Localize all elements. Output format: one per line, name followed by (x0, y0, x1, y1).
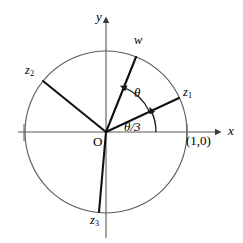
subscript: 2 (30, 69, 34, 78)
figure-canvas (0, 0, 243, 243)
point-label-z2: z2 (25, 64, 34, 78)
angle-label-theta-over-three: θ/3 (124, 120, 141, 133)
vector-z2 (43, 81, 106, 132)
unit-point-label: (1,0) (186, 134, 211, 147)
angle-label-theta: θ (134, 86, 140, 99)
subscript: 3 (95, 219, 99, 228)
point-label-z3: z3 (90, 214, 99, 228)
origin-label: O (93, 135, 102, 148)
point-label-z1: z1 (183, 86, 192, 100)
y-axis-label: y (96, 10, 102, 23)
x-axis-label: x (228, 124, 234, 137)
arc-theta-over-three (151, 111, 156, 132)
complex-roots-figure: y x O (1,0) w z1 z2 z3 θ θ/3 (0, 0, 243, 243)
point-label-w: w (134, 34, 142, 47)
radius-vectors (43, 57, 179, 212)
subscript: 1 (188, 91, 192, 100)
